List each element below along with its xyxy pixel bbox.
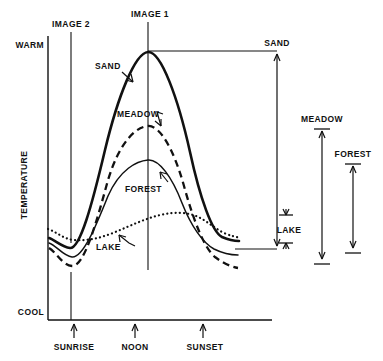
reference-tie-lines — [148, 51, 277, 249]
diurnal-temperature-figure: SAND MEADOW FOREST LAKE SAND — [0, 0, 383, 361]
amplitude-range-bars: SAND LAKE MEADOW FOREST — [264, 38, 372, 264]
y-axis-title: TEMPERATURE — [19, 151, 29, 219]
y-axis-bottom-label: COOL — [18, 307, 44, 317]
leader-line-lake — [119, 235, 135, 246]
image-marker-labels: IMAGE 2 IMAGE 1 — [52, 9, 169, 29]
range-label-sand: SAND — [264, 38, 290, 48]
inline-curve-annotations: SAND MEADOW FOREST LAKE — [95, 61, 168, 252]
range-label-meadow: MEADOW — [301, 114, 344, 124]
curve-sand — [49, 52, 239, 248]
range-label-lake: LAKE — [277, 225, 302, 235]
axis-group — [48, 36, 272, 320]
diagram-canvas: SAND MEADOW FOREST LAKE SAND — [0, 0, 383, 361]
range-label-forest: FOREST — [335, 149, 372, 159]
curve-label-meadow: MEADOW — [117, 109, 160, 119]
curves-group — [48, 52, 241, 268]
curve-label-sand: SAND — [95, 61, 121, 71]
y-axis-top-label: WARM — [15, 40, 44, 50]
image-1-label: IMAGE 1 — [131, 9, 169, 19]
image-2-label: IMAGE 2 — [52, 19, 90, 29]
curve-label-lake: LAKE — [96, 242, 121, 252]
x-tick-label-sunset: SUNSET — [187, 342, 224, 352]
curve-label-forest: FOREST — [125, 184, 162, 194]
x-tick-label-noon: NOON — [121, 342, 148, 352]
axis-text-labels: WARM COOL TEMPERATURE SUNRISE NOON SUNSE… — [15, 40, 223, 352]
x-tick-label-sunrise: SUNRISE — [54, 342, 95, 352]
x-axis-tick-arrows — [71, 324, 206, 338]
